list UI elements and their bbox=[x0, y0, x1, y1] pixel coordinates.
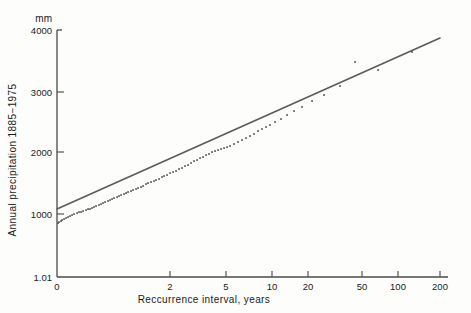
data-point bbox=[280, 118, 282, 120]
x-tick-label-0: 0 bbox=[54, 281, 59, 292]
y-tick-label-1000: 1000 bbox=[31, 209, 52, 220]
data-point bbox=[161, 176, 163, 178]
data-point bbox=[196, 159, 198, 161]
data-point bbox=[181, 167, 183, 169]
y-tick-label-2000: 2000 bbox=[31, 147, 52, 158]
y-tick-label-3000: 3000 bbox=[31, 87, 52, 98]
data-point bbox=[58, 221, 60, 223]
data-point bbox=[226, 146, 228, 148]
x-tick-label-10: 10 bbox=[267, 281, 278, 292]
data-point bbox=[241, 139, 243, 141]
data-point bbox=[184, 165, 186, 167]
data-point bbox=[85, 209, 87, 211]
data-point bbox=[311, 100, 313, 102]
x-tick-label-5: 5 bbox=[223, 281, 228, 292]
data-point bbox=[211, 151, 213, 153]
data-point bbox=[175, 170, 177, 172]
x-tick-label-200: 200 bbox=[432, 281, 448, 292]
data-point bbox=[61, 219, 63, 221]
x-tick-label-20: 20 bbox=[303, 281, 314, 292]
data-point bbox=[217, 149, 219, 151]
data-point bbox=[199, 157, 201, 159]
data-point bbox=[229, 145, 231, 147]
data-point bbox=[89, 208, 91, 210]
data-point bbox=[377, 69, 379, 71]
data-point bbox=[354, 61, 356, 63]
data-point bbox=[190, 162, 192, 164]
y-axis-tick-labels: 4000 3000 2000 1000 1.01 bbox=[31, 25, 52, 283]
data-point bbox=[125, 192, 127, 194]
x-axis-tick-marks bbox=[170, 271, 440, 277]
x-axis-tick-labels: 0 2 5 10 20 50 100 200 bbox=[54, 281, 448, 292]
data-point bbox=[253, 133, 255, 135]
data-point bbox=[193, 160, 195, 162]
data-point bbox=[111, 198, 113, 200]
data-point bbox=[76, 212, 78, 214]
data-point bbox=[123, 193, 125, 195]
data-point bbox=[95, 205, 97, 207]
data-point bbox=[109, 199, 111, 201]
figure-container: mm 4000 3000 2000 1000 1.01 0 2 5 10 20 … bbox=[0, 0, 471, 313]
data-point bbox=[202, 156, 204, 158]
data-point bbox=[145, 183, 147, 185]
data-point bbox=[223, 147, 225, 149]
x-tick-label-50: 50 bbox=[357, 281, 368, 292]
data-point bbox=[208, 153, 210, 155]
data-point bbox=[323, 94, 325, 96]
data-point bbox=[113, 197, 115, 199]
data-point bbox=[265, 126, 267, 128]
data-point bbox=[78, 211, 80, 213]
data-point bbox=[257, 130, 259, 132]
x-tick-label-100: 100 bbox=[390, 281, 406, 292]
data-point bbox=[130, 190, 132, 192]
y-tick-label-101: 1.01 bbox=[34, 272, 53, 283]
data-point bbox=[411, 51, 413, 53]
y-axis-tick-marks bbox=[57, 92, 64, 214]
regression-fit-line bbox=[57, 38, 440, 209]
data-point bbox=[135, 188, 137, 190]
data-point bbox=[71, 214, 73, 216]
data-point bbox=[127, 191, 129, 193]
data-point bbox=[205, 154, 207, 156]
data-point bbox=[91, 207, 93, 209]
data-point bbox=[98, 204, 100, 206]
data-point bbox=[166, 174, 168, 176]
x-axis-title: Reccurrence interval, years bbox=[138, 294, 271, 305]
data-point bbox=[237, 141, 239, 143]
data-point bbox=[214, 150, 216, 152]
scatter-points-group bbox=[57, 51, 413, 224]
data-point bbox=[286, 114, 288, 116]
data-point bbox=[87, 208, 89, 210]
precipitation-recurrence-scatter-chart: mm 4000 3000 2000 1000 1.01 0 2 5 10 20 … bbox=[0, 0, 471, 313]
data-point bbox=[63, 218, 65, 220]
y-axis-unit-label: mm bbox=[35, 13, 52, 24]
data-point bbox=[147, 182, 149, 184]
x-tick-label-2: 2 bbox=[167, 281, 172, 292]
data-point bbox=[301, 106, 303, 108]
data-point bbox=[118, 195, 120, 197]
data-point bbox=[158, 178, 160, 180]
data-point bbox=[116, 196, 118, 198]
data-point bbox=[245, 137, 247, 139]
data-point bbox=[233, 143, 235, 145]
data-point bbox=[163, 175, 165, 177]
data-point bbox=[274, 121, 276, 123]
data-point bbox=[80, 211, 82, 213]
data-point bbox=[120, 194, 122, 196]
data-point bbox=[67, 216, 69, 218]
data-point bbox=[339, 85, 341, 87]
data-point bbox=[220, 148, 222, 150]
data-point bbox=[150, 181, 152, 183]
data-point bbox=[169, 172, 171, 174]
data-point bbox=[178, 168, 180, 170]
data-point bbox=[69, 215, 71, 217]
data-point bbox=[65, 217, 67, 219]
data-point bbox=[100, 203, 102, 205]
data-point bbox=[104, 201, 106, 203]
data-point bbox=[187, 164, 189, 166]
data-point bbox=[132, 189, 134, 191]
data-point bbox=[73, 213, 75, 215]
data-point bbox=[249, 135, 251, 137]
data-point bbox=[137, 187, 139, 189]
data-point bbox=[269, 124, 271, 126]
